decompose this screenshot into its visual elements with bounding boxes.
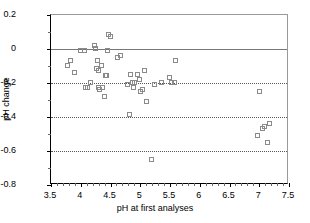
data-point [104,73,109,78]
x-tick-minor [271,183,272,186]
data-point [173,58,178,63]
data-point [82,48,87,53]
x-tick-minor [206,183,207,186]
data-point [96,68,101,73]
data-point [88,80,93,85]
y-tick-minor [48,32,51,33]
x-tick-label: 6.5 [222,190,235,200]
data-point [159,80,164,85]
x-tick [111,183,112,187]
y-tick-label: 0.2 [3,9,16,19]
x-tick-minor [93,183,94,186]
x-tick-label: 5.5 [163,190,176,200]
x-tick-minor [128,183,129,186]
data-point [68,58,73,63]
data-point [137,77,142,82]
x-tick-minor [212,183,213,186]
plot-area [50,14,288,184]
data-point [85,85,90,90]
data-point [108,34,113,39]
x-tick [289,183,290,187]
x-tick-minor [152,183,153,186]
y-tick [47,117,51,118]
gridline [51,151,287,152]
data-point [105,48,110,53]
x-tick-minor [99,183,100,186]
scatter-chart-figure: pH change pH at first analyses 0.20-0.2-… [0,0,310,223]
data-point [265,140,270,145]
x-tick-minor [134,183,135,186]
x-tick-minor [105,183,106,186]
y-tick-minor [48,66,51,67]
x-tick [170,183,171,187]
data-point [257,89,262,94]
y-tick-label: 0 [11,43,16,53]
x-tick-minor [158,183,159,186]
x-tick-minor [116,183,117,186]
x-axis-title: pH at first analyses [0,203,310,213]
x-tick-minor [146,183,147,186]
y-tick-label: -0.6 [0,145,16,155]
x-tick-minor [265,183,266,186]
x-tick-minor [241,183,242,186]
y-tick-label: -0.2 [0,77,16,87]
x-tick-minor [75,183,76,186]
x-tick-minor [122,183,123,186]
x-tick-minor [176,183,177,186]
y-tick [47,15,51,16]
x-tick-minor [235,183,236,186]
x-tick-minor [194,183,195,186]
x-tick [259,183,260,187]
gridline [51,117,287,118]
data-point [100,85,105,90]
data-point [72,70,77,75]
data-point [255,133,260,138]
y-tick [47,49,51,50]
data-point [144,99,149,104]
x-tick-minor [182,183,183,186]
x-tick-minor [218,183,219,186]
x-tick-label: 4.5 [103,190,116,200]
x-tick [51,183,52,187]
data-point [140,87,145,92]
data-point [102,94,107,99]
x-tick-minor [283,183,284,186]
data-point [142,68,147,73]
x-tick-minor [69,183,70,186]
data-point [128,72,133,77]
x-tick-label: 5 [137,190,142,200]
x-tick-minor [224,183,225,186]
y-tick-minor [48,134,51,135]
data-point [131,85,136,90]
x-tick-label: 6 [196,190,201,200]
x-tick-minor [63,183,64,186]
y-tick [47,151,51,152]
data-point [149,157,154,162]
data-point [99,63,104,68]
data-point [172,80,177,85]
x-tick-minor [247,183,248,186]
data-point [118,53,123,58]
data-point [93,46,98,51]
x-tick [230,183,231,187]
x-tick-minor [87,183,88,186]
x-tick-minor [253,183,254,186]
data-point [267,121,272,126]
x-tick-minor [188,183,189,186]
y-tick-label: -0.4 [0,111,16,121]
x-tick-label: 7 [256,190,261,200]
x-tick-minor [164,183,165,186]
y-tick [47,83,51,84]
data-point [152,82,157,87]
x-tick-label: 3.5 [44,190,57,200]
x-tick-label: 4 [77,190,82,200]
x-tick [140,183,141,187]
x-tick [81,183,82,187]
x-tick-minor [277,183,278,186]
y-tick-minor [48,100,51,101]
x-tick-label: 7.5 [282,190,295,200]
x-tick [200,183,201,187]
data-point [127,112,132,117]
y-tick-minor [48,168,51,169]
x-tick-minor [57,183,58,186]
